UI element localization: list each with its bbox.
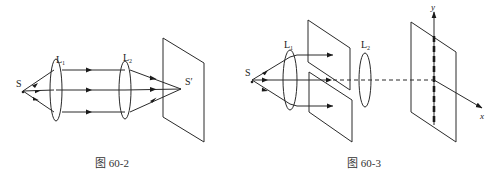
caption-60-3: 图 60-3: [347, 157, 381, 169]
screen: [163, 38, 204, 142]
lens1-label: L1: [56, 54, 65, 66]
x-axis: [434, 80, 482, 108]
figure-60-2: S L1 L2 S′ 图 60-2: [16, 38, 204, 169]
lens2-label: L2: [361, 39, 370, 51]
y-axis-label: y: [430, 2, 435, 12]
caption-60-2: 图 60-2: [95, 157, 129, 169]
source-label: S: [16, 78, 22, 89]
rays-parallel: [56, 68, 125, 115]
lens1-label: L1: [284, 39, 293, 51]
image-label: S′: [185, 76, 193, 87]
rays-after-l1: [290, 53, 333, 109]
x-axis-label: x: [479, 111, 484, 121]
source-point: [22, 91, 25, 94]
lens2-label: L2: [123, 52, 132, 64]
rays-source-to-l1: [23, 70, 54, 112]
optics-diagrams: S L1 L2 S′ 图 60-2: [0, 0, 500, 182]
rays-converging: [125, 70, 181, 112]
source-point: [251, 81, 254, 84]
source-label: S: [245, 67, 251, 78]
figure-60-3: S L1 L2 y x 图 60-3: [245, 2, 484, 169]
